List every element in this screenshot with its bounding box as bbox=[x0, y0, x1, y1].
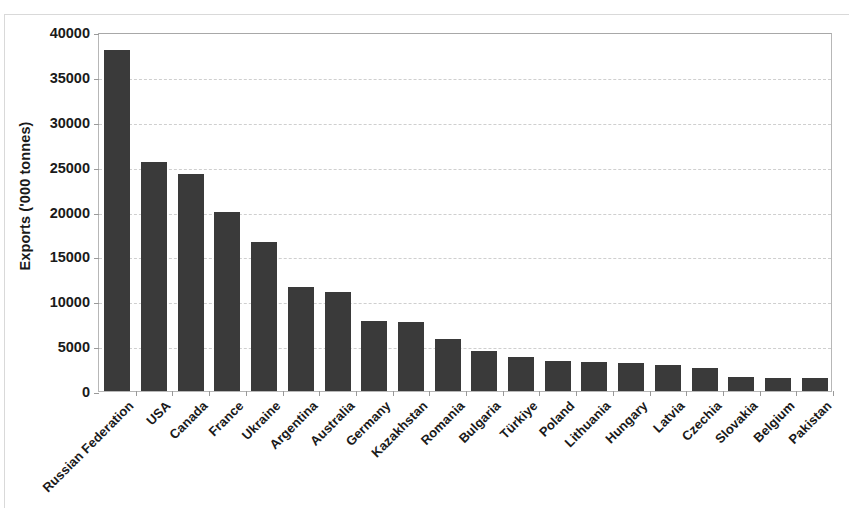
y-axis-tick-label: 35000 bbox=[50, 70, 90, 86]
y-axis-tick-mark bbox=[94, 124, 99, 125]
y-axis-tick-mark bbox=[94, 79, 99, 80]
plot-area bbox=[98, 33, 832, 392]
x-axis-tick-mark bbox=[833, 391, 834, 396]
x-axis-tick-labels: Russian FederationUSACanadaFranceUkraine… bbox=[98, 392, 832, 516]
bar bbox=[435, 339, 461, 391]
bar bbox=[178, 174, 204, 391]
y-axis-tick-label: 5000 bbox=[58, 339, 90, 355]
bar bbox=[728, 377, 754, 391]
bar bbox=[802, 378, 828, 391]
bar bbox=[214, 212, 240, 391]
bar bbox=[251, 242, 277, 391]
gridline bbox=[99, 79, 831, 80]
bar bbox=[325, 292, 351, 391]
y-axis-tick-label: 15000 bbox=[50, 249, 90, 265]
gridline bbox=[99, 169, 831, 170]
y-axis-title: Exports ('000 tonnes) bbox=[12, 0, 38, 392]
y-axis-tick-label: 25000 bbox=[50, 160, 90, 176]
bar bbox=[618, 363, 644, 391]
y-axis-title-text: Exports ('000 tonnes) bbox=[17, 122, 33, 271]
bar bbox=[141, 162, 167, 391]
bar bbox=[288, 287, 314, 391]
y-axis-tick-labels: 0500010000150002000025000300003500040000 bbox=[36, 0, 96, 420]
y-axis-tick-mark bbox=[94, 214, 99, 215]
plot-inner bbox=[99, 34, 831, 391]
x-axis-tick-label: Türkiye bbox=[497, 398, 541, 442]
gridline bbox=[99, 303, 831, 304]
y-axis-tick-label: 40000 bbox=[50, 25, 90, 41]
gridline bbox=[99, 214, 831, 215]
y-axis-tick-mark bbox=[94, 34, 99, 35]
export-bar-chart-figure: Exports ('000 tonnes) 050001000015000200… bbox=[0, 0, 857, 516]
y-axis-tick-label: 10000 bbox=[50, 294, 90, 310]
y-axis-tick-mark bbox=[94, 303, 99, 304]
y-axis-tick-mark bbox=[94, 348, 99, 349]
bar bbox=[765, 378, 791, 391]
y-axis-tick-label: 30000 bbox=[50, 115, 90, 131]
bar bbox=[508, 357, 534, 391]
bar bbox=[361, 321, 387, 391]
bar bbox=[655, 365, 681, 391]
bar bbox=[104, 50, 130, 391]
y-axis-tick-label: 20000 bbox=[50, 205, 90, 221]
bar bbox=[545, 361, 571, 391]
bar bbox=[471, 351, 497, 391]
bar bbox=[692, 368, 718, 391]
y-axis-tick-mark bbox=[94, 169, 99, 170]
y-axis-tick-label: 0 bbox=[82, 384, 90, 400]
bar bbox=[398, 322, 424, 391]
x-axis-tick-label: USA bbox=[143, 398, 173, 428]
x-axis-tick-label: Canada bbox=[166, 398, 210, 442]
gridline bbox=[99, 258, 831, 259]
gridline bbox=[99, 124, 831, 125]
y-axis-tick-mark bbox=[94, 258, 99, 259]
bar bbox=[581, 362, 607, 391]
gridline bbox=[99, 348, 831, 349]
